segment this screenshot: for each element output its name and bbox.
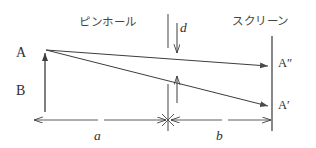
image-point-a-prime-label: A′ [278,99,290,112]
distance-a-label: a [94,129,101,143]
pinhole-camera-diagram: ピンホール スクリーン A B A″ A′ d a b [0,0,316,148]
image-point-a-double-prime-label: A″ [278,57,292,70]
aperture-size-label: d [180,21,187,35]
pinhole-label: ピンホール [79,17,137,29]
dimension-a [34,114,174,126]
screen-label: スクリーン [232,16,289,28]
object-point-a-label: A [16,46,26,60]
object-point-b-label: B [16,84,25,98]
distance-b-label: b [216,129,223,143]
